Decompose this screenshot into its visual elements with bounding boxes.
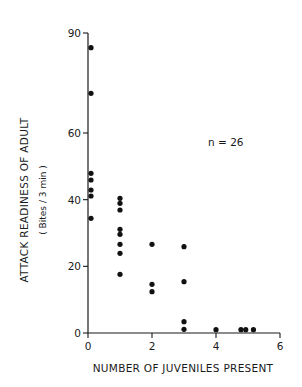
y-axis-unit-label: ( Bites / 3 min ): [38, 165, 48, 235]
data-point: [149, 282, 154, 287]
data-point: [117, 242, 122, 247]
data-point: [117, 272, 122, 277]
data-point: [181, 279, 186, 284]
data-point: [88, 187, 93, 192]
y-tick-label: 0: [74, 327, 81, 339]
y-tick-label: 60: [68, 127, 81, 139]
x-tick-label: 4: [213, 340, 220, 352]
data-point: [88, 216, 93, 221]
y-tick-label: 90: [68, 27, 81, 39]
data-point: [149, 242, 154, 247]
data-point: [117, 207, 122, 212]
x-tick-label: 6: [277, 340, 284, 352]
data-point: [88, 91, 93, 96]
x-tick-label: 0: [85, 340, 92, 352]
sample-size-annotation: n = 26: [208, 136, 244, 148]
data-points: [88, 45, 256, 332]
data-point: [117, 251, 122, 256]
data-point: [117, 196, 122, 201]
data-point: [88, 171, 93, 176]
y-ticks: 020406090: [68, 27, 88, 339]
y-tick-label: 20: [68, 260, 81, 272]
x-tick-label: 2: [149, 340, 156, 352]
data-point: [117, 201, 122, 206]
data-point: [88, 177, 93, 182]
data-point: [149, 289, 154, 294]
data-point: [117, 232, 122, 237]
data-point: [181, 244, 186, 249]
data-point: [251, 327, 256, 332]
scatter-chart: 020406090 0246 NUMBER OF JUVENILES PRESE…: [0, 0, 302, 387]
data-point: [88, 193, 93, 198]
data-point: [88, 45, 93, 50]
data-point: [238, 327, 243, 332]
x-axis-label: NUMBER OF JUVENILES PRESENT: [93, 362, 274, 374]
y-axis-label: ATTACK READINESS OF ADULT: [18, 117, 30, 282]
data-point: [117, 227, 122, 232]
data-point: [181, 327, 186, 332]
y-tick-label: 40: [68, 194, 81, 206]
axes: [88, 33, 280, 333]
data-point: [243, 327, 248, 332]
x-ticks: 0246: [85, 333, 284, 352]
data-point: [181, 319, 186, 324]
data-point: [213, 327, 218, 332]
